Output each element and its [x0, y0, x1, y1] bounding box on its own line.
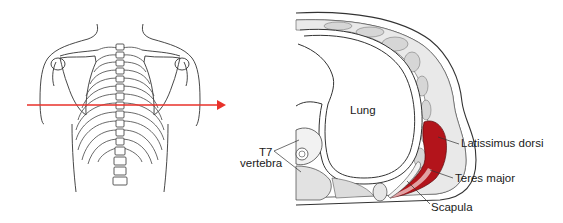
- label-lung: Lung: [350, 104, 376, 117]
- spine: [113, 44, 127, 185]
- label-latissimus-dorsi: Latissimus dorsi: [461, 137, 543, 150]
- label-teres-major: Teres major: [455, 172, 515, 185]
- label-vertebra: vertebra: [240, 157, 282, 170]
- cross-section-illustration: [240, 0, 563, 223]
- section-plane-arrow: [27, 100, 226, 110]
- torso-posterior-view: [0, 0, 240, 223]
- torso-illustration: [0, 0, 240, 223]
- label-scapula: Scapula: [431, 201, 473, 214]
- cross-section-view: Lung T7 vertebra Latissimus dorsi Teres …: [240, 0, 563, 223]
